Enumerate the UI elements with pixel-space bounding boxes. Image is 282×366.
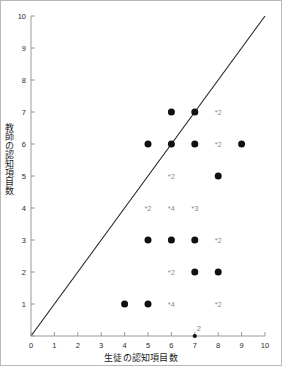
data-point-marker	[145, 141, 152, 148]
x-tick-label: 0	[29, 341, 33, 350]
data-point-count-label: *2	[215, 140, 222, 149]
y-tick-label: 7	[22, 108, 26, 117]
x-axis-ticks: 012345678910	[29, 332, 269, 350]
data-point-count-label: *2	[215, 236, 222, 245]
data-point-count-label: *4	[168, 204, 175, 213]
data-point-count-labels: *2*2*2*2*4*3*2*2*4*22	[144, 108, 221, 333]
y-tick-label: 9	[22, 44, 26, 53]
data-point-marker	[145, 237, 152, 244]
data-point-count-label: *3	[191, 204, 198, 213]
y-tick-label: 4	[22, 204, 26, 213]
plot-canvas: 012345678910 12345678910 *2*2*2*2*4*3*2*…	[0, 0, 282, 366]
reference-line	[31, 16, 265, 336]
data-point-marker	[191, 269, 198, 276]
data-point-count-label: 2	[197, 324, 201, 333]
data-point-count-label: *2	[168, 268, 175, 277]
data-point-marker	[168, 237, 175, 244]
data-point-marker	[121, 301, 128, 308]
x-tick-label: 9	[240, 341, 244, 350]
y-axis-title: 教師の認知項目数	[2, 123, 14, 195]
x-tick-label: 6	[169, 341, 173, 350]
y-axis-ticks: 12345678910	[18, 12, 35, 336]
x-tick-label: 5	[146, 341, 150, 350]
y-tick-label: 5	[22, 172, 26, 181]
y-tick-label: 8	[22, 76, 26, 85]
data-point-marker	[215, 173, 222, 180]
x-tick-label: 10	[261, 341, 269, 350]
data-point-marker	[191, 109, 198, 116]
x-tick-label: 3	[99, 341, 103, 350]
data-point-count-label: *2	[215, 300, 222, 309]
data-points	[121, 109, 245, 339]
data-point-count-label: *4	[168, 300, 175, 309]
y-tick-label: 3	[22, 236, 26, 245]
data-point-count-label: *2	[168, 172, 175, 181]
data-point-marker	[145, 301, 152, 308]
data-point-count-label: *2	[144, 204, 151, 213]
x-tick-label: 2	[76, 341, 80, 350]
y-tick-label: 2	[22, 268, 26, 277]
x-tick-label: 1	[52, 341, 56, 350]
data-point-marker	[238, 141, 245, 148]
data-point-marker	[168, 109, 175, 116]
identity-line	[31, 16, 265, 336]
data-point-marker	[193, 334, 197, 338]
figure-border	[1, 1, 282, 366]
data-point-marker	[215, 269, 222, 276]
data-point-marker	[191, 237, 198, 244]
x-tick-label: 8	[216, 341, 220, 350]
x-axis-title: 生徒の認知項目数	[0, 351, 282, 364]
y-tick-label: 1	[22, 300, 26, 309]
data-point-marker	[191, 141, 198, 148]
y-tick-label: 10	[18, 12, 26, 21]
data-point-count-label: *2	[215, 108, 222, 117]
x-tick-label: 4	[123, 341, 127, 350]
scatter-plot-figure: 012345678910 12345678910 *2*2*2*2*4*3*2*…	[0, 0, 282, 366]
data-point-marker	[168, 141, 175, 148]
x-tick-label: 7	[193, 341, 197, 350]
y-tick-label: 6	[22, 140, 26, 149]
